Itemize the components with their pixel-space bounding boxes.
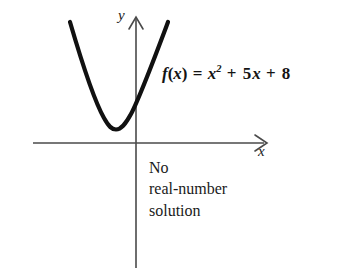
caption-line: solution: [149, 200, 227, 221]
parabola-figure: y x f(x) = x2 + 5x + 8 No real-number so…: [0, 0, 346, 278]
caption-line: real-number: [149, 178, 227, 199]
solution-caption: No real-number solution: [149, 157, 227, 221]
equation-equals-sign: =: [192, 64, 204, 83]
equation-operator-2: +: [265, 64, 277, 83]
equation-operator-1: +: [226, 64, 238, 83]
x-axis-label: x: [258, 144, 265, 159]
equation-argument: x: [173, 64, 182, 83]
plot-canvas: [0, 0, 346, 278]
equation-term1-base: x: [208, 64, 217, 83]
equation-term2-variable: x: [252, 64, 261, 83]
equation-close-paren: ): [182, 64, 188, 83]
y-axis-label: y: [118, 8, 125, 23]
equation-term2-coefficient: 5: [242, 64, 253, 83]
parabola-curve: [70, 22, 168, 130]
equation-term1-exponent: 2: [216, 63, 221, 74]
caption-line: No: [149, 157, 227, 178]
equation-term3-constant: 8: [281, 64, 292, 83]
equation-annotation: f(x) = x2 + 5x + 8: [162, 65, 291, 84]
